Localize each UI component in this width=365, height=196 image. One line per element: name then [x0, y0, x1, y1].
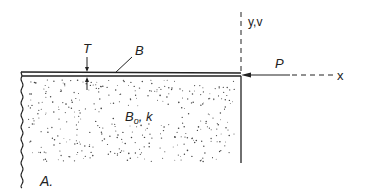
plate-top-edge — [21, 72, 241, 73]
plate-leader-line — [115, 57, 132, 73]
thickness-arrowhead-up-icon — [85, 77, 89, 82]
beam-on-foundation-diagram: /* placeholder */ T B P y,v x Bo, k A. — [0, 0, 365, 196]
y-axis-label: y,v — [248, 15, 262, 29]
plate-label: B — [135, 43, 144, 58]
x-axis-label: x — [337, 68, 344, 83]
panel-label: A. — [39, 173, 53, 189]
force-label: P — [275, 56, 284, 71]
foundation-modulus-label: Bo, k — [125, 109, 154, 126]
foundation-left-break-line — [21, 76, 23, 188]
thickness-label: T — [83, 41, 92, 56]
force-arrowhead-icon — [241, 73, 251, 78]
thickness-arrowhead-down-icon — [85, 67, 89, 72]
